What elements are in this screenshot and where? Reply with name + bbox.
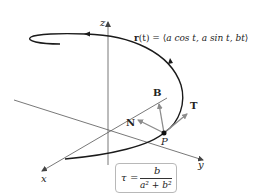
x-axis xyxy=(42,98,167,171)
torsion-equals: = xyxy=(130,172,138,183)
point-p-label: P xyxy=(161,137,168,147)
tangent-label: T xyxy=(190,101,197,111)
curve-equation-body: a cos t, a sin t, bt xyxy=(166,33,245,43)
torsion-numerator: b xyxy=(154,165,160,176)
tangent-vector xyxy=(164,114,187,133)
normal-vector xyxy=(138,120,164,133)
x-axis-label: x xyxy=(41,174,47,184)
curve-arrow-top xyxy=(84,32,90,37)
torsion-symbol: τ xyxy=(121,172,127,183)
curve-equation-close: ⟩ xyxy=(245,33,249,43)
curve-equation-label: r(t) = ⟨a cos t, a sin t, bt⟩ xyxy=(134,34,248,43)
fraction-bar xyxy=(140,178,172,179)
torsion-formula-box: τ = b a² + b² xyxy=(115,163,177,193)
binormal-vector xyxy=(159,104,164,133)
point-p xyxy=(162,131,167,136)
curve-equation-arg: (t) = ⟨ xyxy=(139,33,166,43)
binormal-label: B xyxy=(153,88,161,98)
curve-arrow-right xyxy=(168,58,173,64)
normal-label: N xyxy=(126,118,135,128)
y-axis-label: y xyxy=(198,160,204,170)
y-axis xyxy=(14,100,203,160)
z-axis-label: z xyxy=(100,18,105,28)
torsion-denominator: a² + b² xyxy=(140,180,172,190)
